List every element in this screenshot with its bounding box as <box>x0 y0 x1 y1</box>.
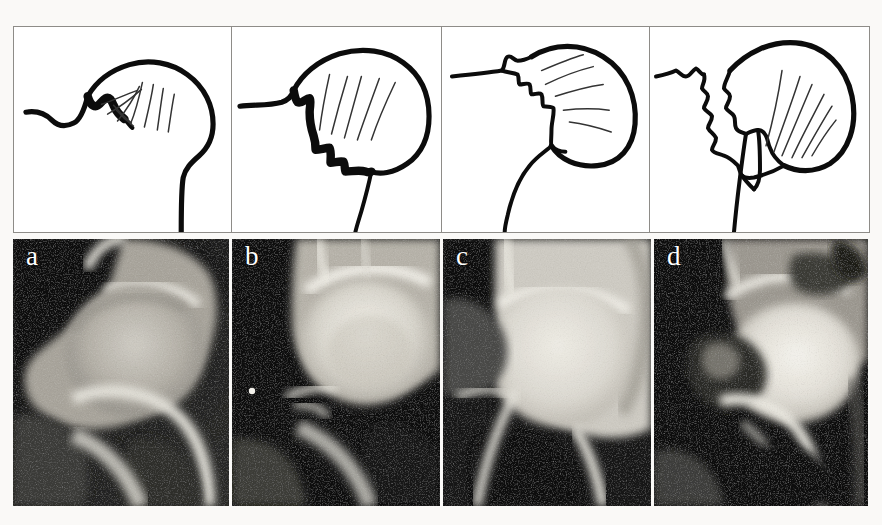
radiograph-hip-c: c <box>443 239 651 506</box>
schematic-hip-a <box>14 27 232 232</box>
schematic-hip-d <box>650 27 865 232</box>
panel-label-c: c <box>456 243 468 270</box>
schematic-hip-c <box>442 27 650 232</box>
figure-root: a <box>0 0 882 525</box>
radiograph-hip-d-image <box>654 239 868 506</box>
panel-label-d: d <box>667 243 681 270</box>
schematic-hip-c-drawing <box>442 27 649 232</box>
schematic-row <box>13 26 870 233</box>
radiograph-hip-b-image <box>232 239 440 506</box>
radiograph-row: a <box>13 239 870 506</box>
panel-label-a: a <box>26 243 38 270</box>
schematic-hip-b <box>232 27 442 232</box>
panel-label-b: b <box>245 243 259 270</box>
radiograph-hip-a-image <box>13 239 229 506</box>
radiograph-hip-a: a <box>13 239 229 506</box>
radiograph-hip-b: b <box>232 239 440 506</box>
schematic-hip-d-drawing <box>650 27 865 232</box>
radiograph-hip-c-image <box>443 239 651 506</box>
schematic-hip-a-drawing <box>14 27 231 232</box>
radiograph-hip-d: d <box>654 239 868 506</box>
schematic-hip-b-drawing <box>232 27 441 232</box>
